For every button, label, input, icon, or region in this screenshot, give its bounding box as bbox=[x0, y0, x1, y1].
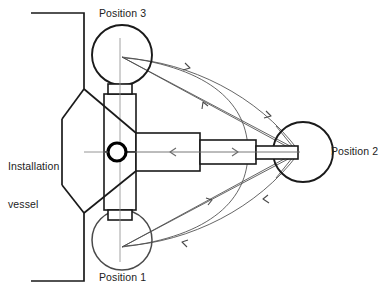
position3-circle bbox=[92, 25, 152, 85]
position1-label: Position 1 bbox=[99, 271, 146, 284]
installation-vessel-label-line2: vessel bbox=[8, 198, 59, 211]
position2-label: Position 2 bbox=[331, 145, 378, 158]
diagram-canvas: Position 3 Position 2 Position 1 Install… bbox=[0, 0, 389, 291]
installation-vessel-label: Installation vessel bbox=[8, 135, 59, 235]
position3-label: Position 3 bbox=[99, 7, 146, 20]
pivot-hub-icon bbox=[108, 143, 126, 161]
installation-vessel-label-line1: Installation bbox=[8, 160, 59, 173]
